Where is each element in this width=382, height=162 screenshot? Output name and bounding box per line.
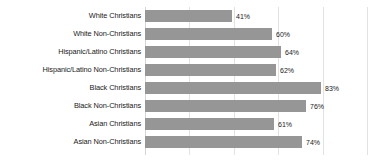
bar-value-label: 74% — [306, 139, 320, 146]
bar[interactable] — [145, 136, 302, 148]
bar-track: 61% — [145, 115, 382, 133]
bar-track: 74% — [145, 133, 382, 151]
bar-row: Asian Christians 61% — [0, 115, 382, 133]
bar[interactable] — [145, 10, 232, 22]
bar-row: Black Christians 83% — [0, 79, 382, 97]
bar[interactable] — [145, 118, 274, 130]
bar-value-label: 60% — [276, 31, 290, 38]
bar-row: White Christians 41% — [0, 7, 382, 25]
bar-value-label: 62% — [280, 67, 294, 74]
bar-row: Hispanic/Latino Christians 64% — [0, 43, 382, 61]
bar[interactable] — [145, 100, 306, 112]
bar[interactable] — [145, 46, 281, 58]
bar-rows: White Christians 41% White Non-Christian… — [0, 7, 382, 151]
category-label: Asian Christians — [0, 120, 145, 127]
bar-track: 83% — [145, 79, 382, 97]
bar-track: 41% — [145, 7, 382, 25]
bar-row: Asian Non-Christians 74% — [0, 133, 382, 151]
bar-row: Hispanic/Latino Non-Christians 62% — [0, 61, 382, 79]
bar-row: Black Non-Christians 76% — [0, 97, 382, 115]
bar-value-label: 41% — [236, 13, 250, 20]
bar-value-label: 76% — [310, 103, 324, 110]
bar-track: 62% — [145, 61, 382, 79]
bar-track: 60% — [145, 25, 382, 43]
category-label: Hispanic/Latino Christians — [0, 48, 145, 55]
bar-row: White Non-Christians 60% — [0, 25, 382, 43]
bar-track: 64% — [145, 43, 382, 61]
category-label: Black Christians — [0, 84, 145, 91]
category-label: Black Non-Christians — [0, 102, 145, 109]
bar-value-label: 64% — [285, 49, 299, 56]
bar[interactable] — [145, 82, 321, 94]
bar[interactable] — [145, 28, 272, 40]
category-label: Hispanic/Latino Non-Christians — [0, 66, 145, 73]
bar-track: 76% — [145, 97, 382, 115]
bar-chart: White Christians 41% White Non-Christian… — [0, 0, 382, 162]
bar[interactable] — [145, 64, 276, 76]
category-label: Asian Non-Christians — [0, 138, 145, 145]
bar-value-label: 83% — [325, 85, 339, 92]
category-label: White Christians — [0, 12, 145, 19]
category-label: White Non-Christians — [0, 30, 145, 37]
bar-value-label: 61% — [278, 121, 292, 128]
